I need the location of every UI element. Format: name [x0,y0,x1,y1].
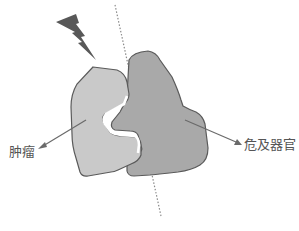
tumor-organ-diagram [0,0,299,231]
organ-at-risk-label: 危及器官 [244,138,296,151]
tumor-label: 肿瘤 [9,145,35,158]
tumor-arrowhead [38,142,47,149]
lightning-bolt-icon [56,14,96,60]
